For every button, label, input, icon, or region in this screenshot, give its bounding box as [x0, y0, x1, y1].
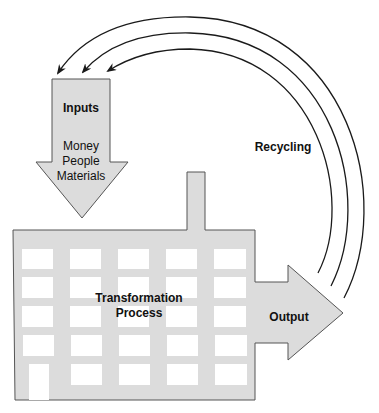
inputs-item-people: People: [62, 154, 100, 168]
process-label-line1: Transformation: [95, 291, 182, 305]
inputs-title: Inputs: [63, 101, 99, 115]
factory-building: [13, 172, 343, 400]
systems-diagram: Inputs Money People Materials Transforma…: [0, 0, 379, 413]
inputs-item-money: Money: [63, 139, 99, 153]
recycling-label: Recycling: [255, 140, 312, 154]
process-label-line2: Process: [116, 306, 163, 320]
output-label: Output: [269, 310, 308, 324]
factory-door: [29, 364, 49, 400]
inputs-item-materials: Materials: [57, 169, 106, 183]
